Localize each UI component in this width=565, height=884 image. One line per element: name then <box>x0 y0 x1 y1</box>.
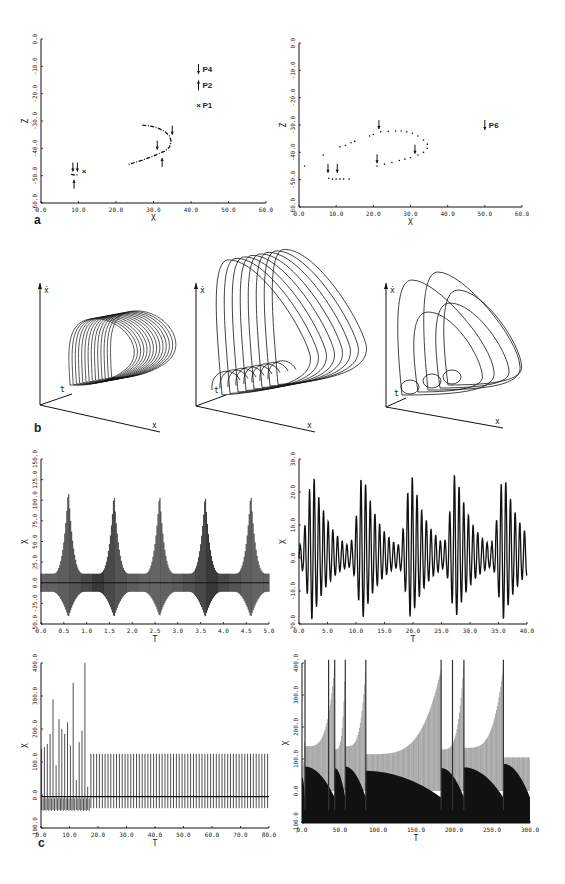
arrowhead-icon <box>194 283 198 289</box>
data-dot <box>399 160 401 162</box>
x-tick-label: 100.0 <box>369 826 387 833</box>
data-dot <box>369 135 371 137</box>
data-dot <box>354 141 356 143</box>
t-label: t <box>60 385 65 394</box>
data-dot <box>345 145 347 147</box>
panel-label-a: a <box>34 213 41 227</box>
y-axis-label: X <box>21 743 30 748</box>
x-label: x <box>307 421 312 430</box>
y-axis-label: Z <box>279 122 288 127</box>
y-tick-label: 75.0 <box>31 513 38 528</box>
x-marker: × <box>82 167 87 176</box>
y-tick-label: 100.0 <box>31 753 38 771</box>
x-tick-label: 30.0 <box>463 627 478 634</box>
plot-3d-b-left: ẋxt <box>38 283 160 432</box>
x-axis <box>40 405 160 432</box>
x-label: x <box>152 421 157 430</box>
x-tick-label: 40.0 <box>440 210 455 217</box>
x-tick-label: 60.0 <box>205 831 220 838</box>
y-tick-label: -40.0 <box>31 139 38 157</box>
y-tick-label: 10.0 <box>289 517 296 532</box>
x-tick-label: 150.0 <box>407 826 425 833</box>
x-tick-label: 20.0 <box>109 206 124 213</box>
arrowhead-icon <box>38 283 42 289</box>
y-tick-label: -20.0 <box>31 84 38 102</box>
y-tick-label: 0.0 <box>31 577 38 588</box>
y-tick-label: 0.0 <box>289 552 296 563</box>
inner-loop-curve <box>268 361 296 380</box>
data-dot <box>348 178 350 180</box>
x-tick-label: 200.0 <box>445 826 463 833</box>
arrowhead-icon <box>384 283 388 289</box>
data-dot <box>423 139 425 141</box>
y-tick-label: -25.0 <box>31 594 38 612</box>
y-tick-label: 100.0 <box>31 491 38 509</box>
panel-a-right-plot: 0.010.020.030.040.050.060.00.0-10.0-20.0… <box>279 37 530 227</box>
y-tick-label: -30.0 <box>289 116 296 134</box>
xdot-label: ẋ <box>44 286 49 295</box>
annotation-label: P4 <box>203 65 213 74</box>
x-tick-label: 70.0 <box>233 831 248 838</box>
data-dot <box>335 178 337 180</box>
inner-loop-curve <box>443 370 461 384</box>
loop-curve <box>398 280 494 395</box>
x-tick-label: 5.0 <box>264 627 275 634</box>
x-tick-label: 10.0 <box>71 206 86 213</box>
data-dot <box>426 147 428 149</box>
inner-loop-curve <box>401 380 419 394</box>
arrowhead-icon <box>161 158 164 161</box>
x-tick-label: 60.0 <box>259 206 274 213</box>
x-label: x <box>495 417 500 426</box>
y-tick-label: 400.0 <box>292 654 299 672</box>
t-axis <box>386 398 406 407</box>
data-dot <box>304 165 306 167</box>
x-axis-label: T <box>411 635 416 644</box>
inner-loop-curve <box>260 362 288 381</box>
data-dot <box>417 154 419 156</box>
data-dot <box>343 178 345 180</box>
x-tick-label: 40.0 <box>184 206 199 213</box>
x-tick-label: 0.5 <box>58 627 69 634</box>
inner-loop-curve <box>252 364 280 383</box>
signal-trace <box>41 494 269 616</box>
panel-c-bottom-right-plot: 0.050.0100.0150.0200.0250.0300.0400.0300… <box>282 654 539 843</box>
x-axis <box>386 407 503 428</box>
data-dot <box>412 132 414 134</box>
y-axis-label: X <box>21 539 30 544</box>
x-tick-label: 20.0 <box>366 210 381 217</box>
y-tick-label: 300.0 <box>31 687 38 705</box>
y-tick-label: 0.0 <box>289 37 296 48</box>
loops-left <box>69 311 176 385</box>
data-dot <box>391 162 393 164</box>
data-dot <box>417 135 419 137</box>
y-tick-label: 200.0 <box>292 718 299 736</box>
arrowhead-icon <box>413 151 416 154</box>
y-tick-label: 30.0 <box>289 451 296 466</box>
y-tick-label: 0.0 <box>31 789 38 800</box>
x-tick-label: 50.0 <box>221 206 236 213</box>
x-tick-label: 60.0 <box>515 210 530 217</box>
loops-middle <box>212 249 367 395</box>
x-tick-label: 30.0 <box>403 210 418 217</box>
x-tick-label: 3.5 <box>195 627 206 634</box>
data-dot <box>387 130 389 132</box>
data-dot <box>410 157 412 159</box>
y-tick-label: -10.0 <box>31 57 38 75</box>
data-dot <box>404 158 406 160</box>
data-dot <box>350 142 352 144</box>
y-tick-label: -50.0 <box>289 170 296 188</box>
data-dot <box>423 152 425 154</box>
panel-label-c: c <box>38 836 45 850</box>
x-tick-label: 40.0 <box>148 831 163 838</box>
y-tick-label: 125.0 <box>31 470 38 488</box>
x-axis-label: T <box>153 839 158 848</box>
x-tick-label: 250.0 <box>483 826 501 833</box>
y-tick-label: -50.0 <box>31 615 38 633</box>
arrowhead-icon <box>171 132 174 135</box>
y-tick-label: -50.0 <box>31 166 38 184</box>
signal-trace <box>299 476 527 619</box>
trajectory-line <box>127 125 171 165</box>
arrowhead-icon <box>375 160 378 163</box>
x-tick-label: 4.5 <box>241 627 252 634</box>
x-axis-label: X <box>151 214 156 223</box>
